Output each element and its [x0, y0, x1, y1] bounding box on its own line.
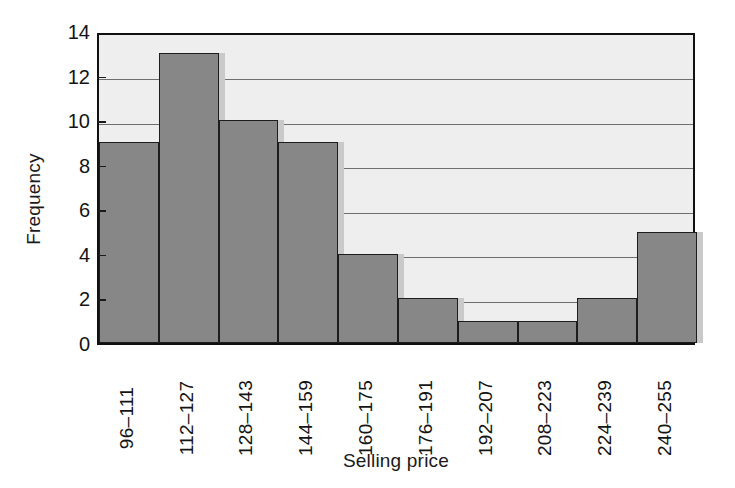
x-tick-label: 176–191	[415, 380, 437, 456]
y-tick-label: 4	[56, 245, 90, 265]
x-tick-label: 96–111	[116, 387, 138, 449]
histogram-bar	[159, 53, 219, 343]
x-tick-label-slot: 192–207	[456, 345, 516, 445]
x-tick-label-slot: 96–111	[97, 345, 157, 445]
y-tick-label: 10	[56, 111, 90, 131]
histogram-bar	[577, 298, 637, 343]
y-tick-mark	[97, 77, 106, 79]
x-tick-label: 240–255	[654, 380, 676, 456]
x-tick-label-slot: 112–127	[157, 345, 217, 445]
histogram-bar	[458, 321, 518, 343]
x-tick-label: 160–175	[355, 380, 377, 456]
x-tick-label: 208–223	[534, 380, 556, 456]
y-tick-label: 0	[56, 334, 90, 354]
x-tick-label: 112–127	[176, 381, 198, 456]
y-tick-label: 12	[56, 67, 90, 87]
y-tick-label: 8	[56, 156, 90, 176]
y-tick-label: 14	[56, 22, 90, 42]
y-tick-label: 6	[56, 200, 90, 220]
histogram-bar	[518, 321, 578, 343]
x-tick-label-slot: 144–159	[276, 345, 336, 445]
x-tick-label: 192–207	[475, 380, 497, 456]
y-tick-mark	[97, 166, 106, 168]
x-tick-label-slot: 176–191	[396, 345, 456, 445]
plot-area	[97, 33, 695, 345]
y-axis-title: Frequency	[23, 119, 45, 279]
y-tick-mark	[97, 121, 106, 123]
histogram-bar	[637, 232, 697, 343]
y-tick-label: 2	[56, 289, 90, 309]
y-tick-mark	[97, 299, 106, 301]
histogram-bar	[398, 298, 458, 343]
plot-inner	[99, 35, 693, 343]
histogram-bar	[99, 142, 159, 343]
x-tick-label: 144–159	[295, 380, 317, 456]
x-tick-label-slot: 208–223	[516, 345, 576, 445]
x-axis-tick-labels: 96–111112–127128–143144–159160–175176–19…	[97, 345, 695, 445]
x-tick-label: 224–239	[594, 380, 616, 456]
x-axis-title: Selling price	[97, 450, 695, 472]
histogram-figure: Frequency 02468101214 96–111112–127128–1…	[0, 0, 735, 488]
y-tick-mark	[97, 210, 106, 212]
histogram-bar	[338, 254, 398, 343]
x-tick-label-slot: 240–255	[635, 345, 695, 445]
histogram-bar	[219, 120, 279, 343]
histogram-bar	[278, 142, 338, 343]
x-tick-label-slot: 128–143	[217, 345, 277, 445]
y-axis-tick-labels: 02468101214	[52, 0, 90, 488]
x-tick-label-slot: 160–175	[336, 345, 396, 445]
x-tick-label-slot: 224–239	[575, 345, 635, 445]
y-tick-mark	[97, 255, 106, 257]
x-tick-label: 128–143	[235, 380, 257, 456]
